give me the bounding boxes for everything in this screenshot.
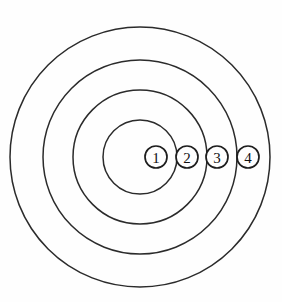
zone-marker-4[interactable]: 4 — [237, 146, 259, 168]
markers-group: 1234 — [145, 146, 259, 168]
zone-marker-2[interactable]: 2 — [176, 146, 198, 168]
marker-label-2: 2 — [183, 150, 191, 166]
marker-label-4: 4 — [244, 150, 252, 166]
zone-marker-3[interactable]: 3 — [206, 146, 228, 168]
marker-label-1: 1 — [152, 150, 160, 166]
concentric-rings-figure: 1234 — [0, 0, 282, 302]
zone-marker-1[interactable]: 1 — [145, 146, 167, 168]
marker-label-3: 3 — [213, 150, 221, 166]
figure-canvas: 1234 — [0, 0, 282, 302]
rings-group — [10, 27, 270, 287]
outermost-ring — [10, 27, 270, 287]
